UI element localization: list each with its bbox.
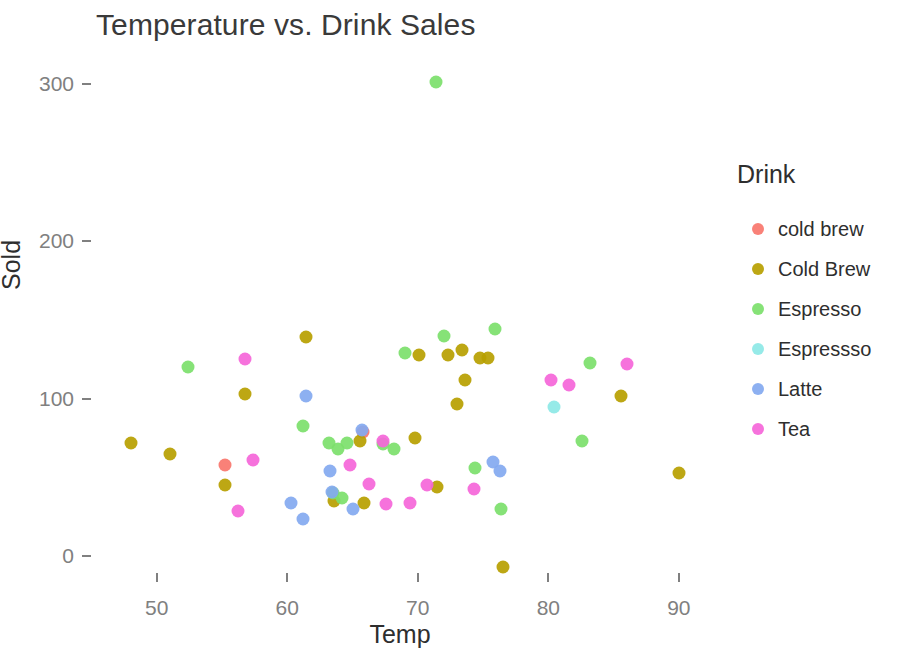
data-point <box>346 503 359 516</box>
data-point <box>450 397 463 410</box>
data-point <box>494 465 507 478</box>
legend-item-espresso[interactable]: Espresso <box>737 289 914 329</box>
data-point <box>409 432 422 445</box>
legend-item-cold-brew[interactable]: cold brew <box>737 209 914 249</box>
legend-swatch-box <box>737 303 778 315</box>
data-point <box>296 419 309 432</box>
data-point <box>182 361 195 374</box>
legend-swatch-box <box>737 423 778 435</box>
data-point <box>380 498 393 511</box>
legend-item-cold-brew[interactable]: Cold Brew <box>737 249 914 289</box>
data-point <box>482 351 495 364</box>
y-tick-label: 100 <box>39 387 74 411</box>
legend-item-label: Tea <box>778 418 810 441</box>
x-tick-mark <box>547 573 549 582</box>
legend-item-label: Cold Brew <box>778 258 870 281</box>
data-point <box>495 503 508 516</box>
page-title: Temperature vs. Drink Sales <box>96 8 476 42</box>
y-tick-label: 0 <box>62 544 74 568</box>
data-point <box>299 389 312 402</box>
legend-title: Drink <box>737 160 914 189</box>
data-point <box>576 435 589 448</box>
data-point <box>247 454 260 467</box>
data-point <box>620 358 633 371</box>
legend-swatch-box <box>737 343 778 355</box>
y-tick-label: 200 <box>39 229 74 253</box>
x-tick-mark <box>286 573 288 582</box>
legend-color-swatch-icon <box>752 383 764 395</box>
data-point <box>469 462 482 475</box>
legend-swatch-box <box>737 223 778 235</box>
data-point <box>563 378 576 391</box>
data-point <box>458 373 471 386</box>
x-tick-mark <box>417 573 419 582</box>
data-point <box>672 466 685 479</box>
y-axis-title: Sold <box>0 240 26 290</box>
legend-item-label: Latte <box>778 378 822 401</box>
data-point <box>413 348 426 361</box>
data-point <box>358 496 371 509</box>
data-point <box>403 496 416 509</box>
legend-item-label: Espresso <box>778 298 861 321</box>
data-point <box>299 331 312 344</box>
x-tick-label: 90 <box>667 596 690 620</box>
x-tick-mark <box>678 573 680 582</box>
y-tick-mark <box>82 83 91 85</box>
data-point <box>398 347 411 360</box>
data-point <box>584 356 597 369</box>
data-point <box>296 512 309 525</box>
x-tick-label: 50 <box>145 596 168 620</box>
legend-color-swatch-icon <box>752 343 764 355</box>
data-point <box>363 477 376 490</box>
data-point <box>420 479 433 492</box>
data-point <box>496 561 509 574</box>
data-point <box>124 436 137 449</box>
data-point <box>218 458 231 471</box>
legend-swatch-box <box>737 263 778 275</box>
data-point <box>376 435 389 448</box>
legend: Drink cold brewCold BrewEspressoEspresss… <box>737 160 914 449</box>
legend-item-espressso[interactable]: Espressso <box>737 329 914 369</box>
plot-panel <box>98 60 718 580</box>
legend-item-label: Espressso <box>778 338 871 361</box>
y-tick-mark <box>82 240 91 242</box>
data-point <box>325 485 338 498</box>
data-point <box>467 482 480 495</box>
data-point <box>388 443 401 456</box>
x-axis-title: Temp <box>369 620 430 649</box>
legend-item-label: cold brew <box>778 218 864 241</box>
data-point <box>355 424 368 437</box>
y-tick-mark <box>82 555 91 557</box>
data-point <box>341 436 354 449</box>
legend-swatch-box <box>737 383 778 395</box>
legend-color-swatch-icon <box>752 423 764 435</box>
data-point <box>437 329 450 342</box>
x-tick-label: 60 <box>276 596 299 620</box>
data-point <box>456 343 469 356</box>
y-tick-label: 300 <box>39 72 74 96</box>
data-point <box>441 348 454 361</box>
x-tick-label: 80 <box>537 596 560 620</box>
data-point <box>544 373 557 386</box>
legend-color-swatch-icon <box>752 303 764 315</box>
x-tick-label: 70 <box>406 596 429 620</box>
data-point <box>324 465 337 478</box>
data-point <box>547 400 560 413</box>
legend-entry-list: cold brewCold BrewEspressoEspresssoLatte… <box>737 209 914 449</box>
data-point <box>231 504 244 517</box>
data-point <box>218 479 231 492</box>
scatter-plot-figure: Temperature vs. Drink Sales 0100200300 S… <box>0 0 914 649</box>
data-point <box>615 389 628 402</box>
y-tick-mark <box>82 398 91 400</box>
data-point <box>285 496 298 509</box>
data-point <box>343 458 356 471</box>
data-point <box>163 447 176 460</box>
legend-item-tea[interactable]: Tea <box>737 409 914 449</box>
data-point <box>488 323 501 336</box>
data-point <box>239 388 252 401</box>
data-point <box>239 353 252 366</box>
legend-color-swatch-icon <box>752 223 764 235</box>
legend-color-swatch-icon <box>752 263 764 275</box>
data-point <box>430 76 443 89</box>
legend-item-latte[interactable]: Latte <box>737 369 914 409</box>
